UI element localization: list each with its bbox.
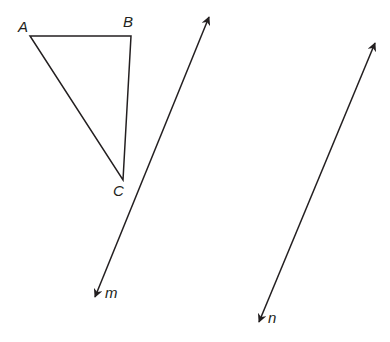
triangle-abc — [30, 36, 131, 180]
line-label-n: n — [268, 309, 276, 326]
line-m — [95, 17, 209, 297]
line-n — [259, 43, 375, 322]
diagram-canvas: A B C m n — [0, 0, 390, 342]
vertex-label-c: C — [113, 182, 124, 199]
line-label-m: m — [105, 284, 118, 301]
vertex-label-a: A — [17, 18, 28, 35]
vertex-label-b: B — [123, 13, 133, 30]
diagram-svg: A B C m n — [0, 0, 390, 342]
